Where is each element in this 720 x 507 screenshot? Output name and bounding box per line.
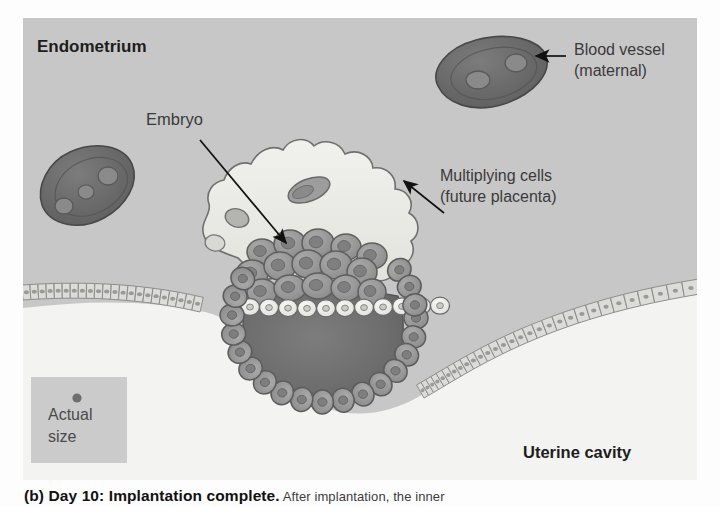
label-multiplying-cells-line1: Multiplying cells: [440, 167, 552, 186]
label-endometrium: Endometrium: [37, 37, 147, 57]
caption-normal: After implantation, the inner: [280, 489, 445, 504]
label-actual-size-line1: Actual: [48, 406, 92, 425]
label-blood-vessel-line2: (maternal): [574, 62, 647, 81]
label-embryo: Embryo: [146, 110, 203, 129]
figure-caption: (b) Day 10: Implantation complete. After…: [24, 487, 714, 507]
caption-bold: (b) Day 10: Implantation complete.: [24, 487, 280, 504]
implantation-figure: Endometrium Blood vessel (maternal) Embr…: [0, 0, 720, 507]
actual-size-dot: [72, 393, 81, 402]
label-multiplying-cells-line2: (future placenta): [440, 188, 557, 207]
label-uterine-cavity: Uterine cavity: [523, 443, 631, 462]
label-actual-size-line2: size: [48, 428, 76, 447]
label-blood-vessel-line1: Blood vessel: [574, 41, 665, 60]
